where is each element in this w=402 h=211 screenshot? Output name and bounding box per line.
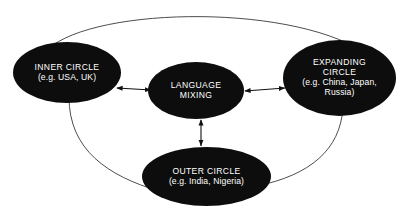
node-outer-circle[interactable] xyxy=(142,147,271,206)
arrow-inner-to-center xyxy=(117,88,151,90)
node-inner-circle[interactable] xyxy=(13,42,121,103)
node-expanding-circle[interactable] xyxy=(283,40,396,116)
node-language-mixing[interactable] xyxy=(148,62,244,119)
diagram-canvas: INNER CIRCLE (e.g. USA, UK) LANGUAGE MIX… xyxy=(0,0,402,211)
arrow-center-to-expanding xyxy=(245,88,285,91)
diagram-graphics xyxy=(0,0,402,211)
